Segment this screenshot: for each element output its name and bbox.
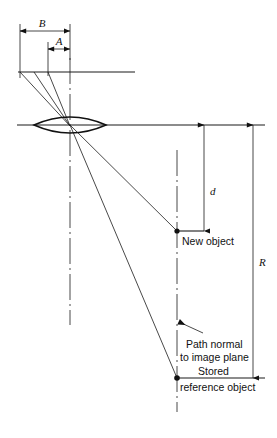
path-normal-label-line2: to image plane	[180, 351, 249, 363]
reference-object-point	[174, 375, 180, 381]
dimension-label-b: B	[39, 17, 46, 29]
dimension-label-r: R	[258, 256, 266, 268]
diagram-canvas: B A d R Ne	[0, 0, 277, 438]
path-normal-leader-line	[179, 322, 203, 333]
reference-object-label: reference object	[180, 381, 255, 393]
stored-label: Stored	[198, 365, 229, 377]
dimension-label-d: d	[210, 185, 216, 197]
ray-to-new-object	[70, 125, 177, 231]
dimension-label-a: A	[55, 35, 63, 47]
path-normal-label-line1: Path normal	[186, 338, 243, 350]
new-object-label: New object	[182, 235, 234, 247]
new-object-point	[174, 228, 179, 233]
optical-ray-diagram: B A d R Ne	[0, 0, 277, 438]
ray-to-reference-object	[70, 125, 177, 378]
